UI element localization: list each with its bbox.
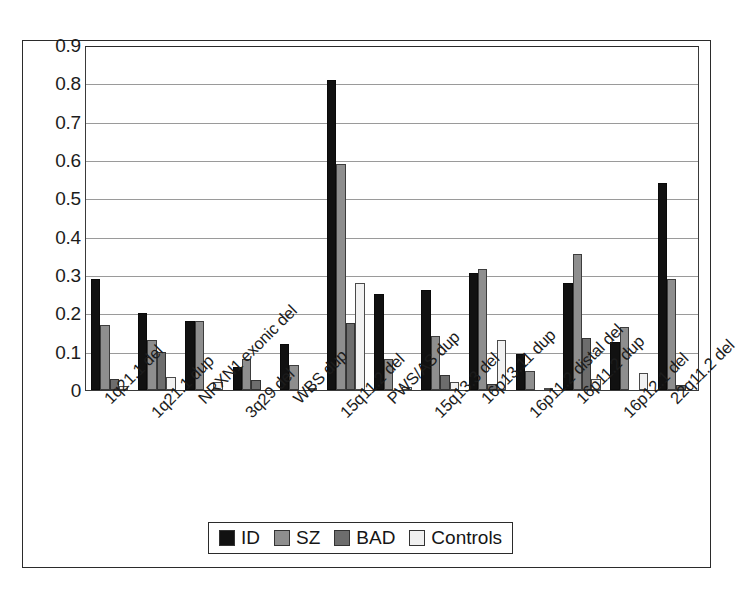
y-axis-tick-label: 0.2 (35, 304, 81, 323)
bar-chart: 0.90.80.70.60.50.40.30.20.10 1q21.1 del1… (23, 41, 712, 569)
legend-swatch-icon (219, 530, 235, 546)
y-axis-tick-label: 0.6 (35, 151, 81, 170)
bar-bad (440, 375, 449, 390)
legend-label: ID (241, 528, 260, 547)
bar-group (185, 47, 223, 390)
y-axis-tick-label: 0.1 (35, 343, 81, 362)
legend-item-controls[interactable]: Controls (409, 528, 502, 547)
y-axis-tick-label: 0.5 (35, 189, 81, 208)
y-axis-tick-label: 0.9 (35, 36, 81, 55)
bar-id (327, 80, 336, 391)
bar-group (138, 47, 176, 390)
bar-group (91, 47, 129, 390)
legend-label: Controls (431, 528, 502, 547)
bar-group (469, 47, 507, 390)
figure-frame: 0.90.80.70.60.50.40.30.20.10 1q21.1 del1… (22, 40, 711, 568)
bar-controls (355, 283, 364, 390)
y-axis-tick-label: 0.7 (35, 113, 81, 132)
y-axis-tick-label: 0 (35, 381, 81, 400)
legend-swatch-icon (274, 530, 290, 546)
bar-group (658, 47, 696, 390)
bar-sz (525, 371, 534, 390)
legend-item-bad[interactable]: BAD (334, 528, 395, 547)
legend-label: BAD (356, 528, 395, 547)
y-axis-tick-label: 0.3 (35, 266, 81, 285)
bar-group (280, 47, 318, 390)
bar-group (374, 47, 412, 390)
bar-group (327, 47, 365, 390)
legend-swatch-icon (334, 530, 350, 546)
bar-id (91, 279, 100, 390)
legend-label: SZ (296, 528, 320, 547)
bar-sz (100, 325, 109, 390)
bar-id (658, 183, 667, 390)
y-axis: 0.90.80.70.60.50.40.30.20.10 (29, 41, 81, 569)
legend-item-sz[interactable]: SZ (274, 528, 320, 547)
y-axis-tick-label: 0.4 (35, 228, 81, 247)
legend-item-id[interactable]: ID (219, 528, 260, 547)
chart-legend: IDSZBADControls (208, 522, 513, 554)
legend-swatch-icon (409, 530, 425, 546)
y-axis-tick-label: 0.8 (35, 74, 81, 93)
x-axis: 1q21.1 del1q21.1 dupNRXN1 exonic del3q29… (85, 393, 699, 523)
